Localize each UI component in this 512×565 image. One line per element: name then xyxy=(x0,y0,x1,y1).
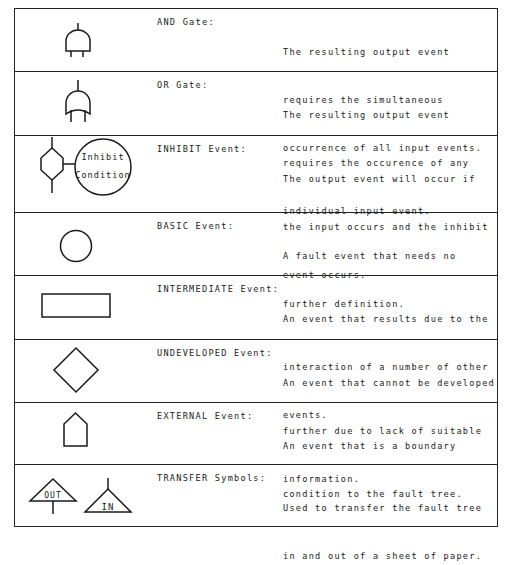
symbol-label: INTERMEDIATE Event: xyxy=(157,284,279,294)
symbol-label: TRANSFER Symbols: xyxy=(157,473,266,483)
inhibit-event-icon: Inhibit Condition xyxy=(15,136,155,212)
external-event-icon xyxy=(15,403,155,464)
row-intermediate-event: INTERMEDIATE Event: An event that result… xyxy=(15,276,497,340)
symbol-label: INHIBIT Event: xyxy=(157,144,247,154)
basic-event-icon xyxy=(15,213,155,275)
row-external-event: EXTERNAL Event: An event that is a bound… xyxy=(15,403,497,465)
condition-text: Condition xyxy=(75,170,131,180)
transfer-symbols-icon: OUT IN xyxy=(15,465,155,525)
out-text: OUT xyxy=(44,491,61,500)
row-undeveloped-event: UNDEVELOPED Event: An event that cannot … xyxy=(15,340,497,403)
undeveloped-event-icon xyxy=(15,340,155,402)
row-inhibit-event: Inhibit Condition INHIBIT Event: The out… xyxy=(15,136,497,213)
symbol-label: AND Gate: xyxy=(157,17,215,27)
row-and-gate: AND Gate: The resulting output event req… xyxy=(15,9,497,72)
and-gate-icon xyxy=(15,9,155,71)
in-text: IN xyxy=(102,502,115,512)
inhibit-text: Inhibit xyxy=(81,152,124,162)
row-transfer-symbols: OUT IN TRANSFER Symbols: Used to transfe… xyxy=(15,465,497,525)
symbol-label: BASIC Event: xyxy=(157,221,234,231)
fault-tree-symbol-table: AND Gate: The resulting output event req… xyxy=(14,8,498,527)
symbol-label: EXTERNAL Event: xyxy=(157,411,253,421)
symbol-label: UNDEVELOPED Event: xyxy=(157,348,273,358)
row-or-gate: OR Gate: The resulting output event requ… xyxy=(15,72,497,136)
symbol-description: Used to transfer the fault tree in and o… xyxy=(283,468,482,565)
intermediate-event-icon xyxy=(15,276,155,339)
or-gate-icon xyxy=(15,72,155,135)
symbol-label: OR Gate: xyxy=(157,80,208,90)
row-basic-event: BASIC Event: A fault event that needs no… xyxy=(15,213,497,276)
